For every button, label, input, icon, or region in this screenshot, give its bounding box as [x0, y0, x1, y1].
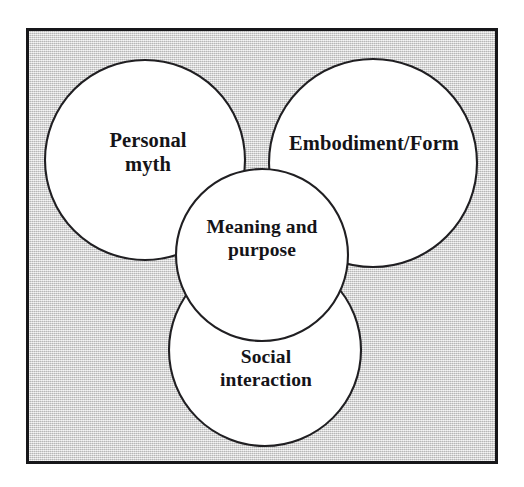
diagram-canvas: Personal myth Embodiment/Form Meaning an…: [0, 0, 524, 487]
diagram-frame: [26, 28, 498, 464]
